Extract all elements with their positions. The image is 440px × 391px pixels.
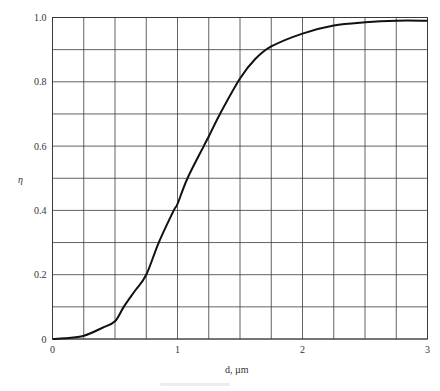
y-tick-label: 0.4 <box>34 205 47 216</box>
y-tick-label: 0 <box>42 334 47 345</box>
y-tick-label: 0.8 <box>34 76 47 87</box>
x-axis-label: d, µm <box>225 364 249 375</box>
x-tick-labels: 0123 <box>50 344 430 355</box>
grid-lines <box>53 18 428 340</box>
figure-caption-cropped <box>160 383 230 386</box>
y-tick-labels: 00.20.40.60.81.0 <box>34 12 47 345</box>
x-tick-label: 3 <box>425 344 430 355</box>
x-tick-label: 0 <box>50 344 55 355</box>
x-tick-label: 2 <box>300 344 305 355</box>
y-tick-label: 0.6 <box>34 141 47 152</box>
y-axis-label: η <box>18 174 23 185</box>
chart: 00.20.40.60.81.0 0123 η d, µm <box>0 0 440 391</box>
y-tick-label: 1.0 <box>34 12 47 23</box>
x-tick-label: 1 <box>175 344 180 355</box>
y-tick-label: 0.2 <box>34 269 47 280</box>
